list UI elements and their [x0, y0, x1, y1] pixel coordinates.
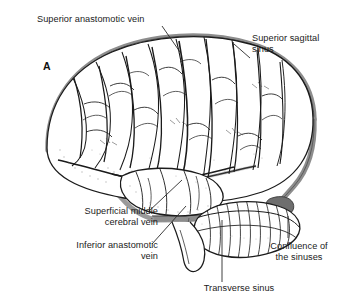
panel-letter: A: [43, 60, 51, 72]
label-transverse-sinus: Transverse sinus: [184, 283, 294, 294]
label-confluence-of-the-sinuses: Confluence of the sinuses: [256, 241, 342, 263]
label-superior-sagittal-sinus: Superior sagittal sinus: [252, 33, 319, 55]
label-superficial-middle-cerebral-vein: Superficial middle cerebral vein: [8, 206, 158, 228]
label-superior-anastomotic-vein: Superior anastomotic vein: [37, 14, 144, 25]
label-inferior-anastomotic-vein: Inferior anastomotic vein: [20, 240, 158, 262]
anatomical-figure: A Superior anastomotic vein Superior sag…: [0, 0, 349, 304]
